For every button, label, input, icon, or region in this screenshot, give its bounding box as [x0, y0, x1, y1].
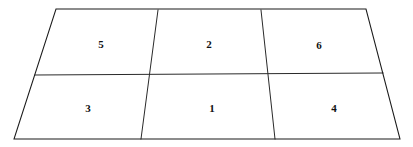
cell-label-top-left: 5 [98, 39, 104, 50]
cell-face-bottom-center[interactable] [141, 72, 275, 139]
cell-label-top-right: 6 [316, 40, 322, 51]
cell-label-bottom-right: 4 [331, 103, 337, 114]
partitioned-quadrilateral-diagram [0, 0, 413, 147]
cell-face-top-left[interactable] [35, 9, 158, 75]
cell-label-bottom-left: 3 [85, 103, 91, 114]
cell-label-top-center: 2 [206, 39, 212, 50]
figure-canvas: 5 2 6 3 1 4 [0, 0, 413, 147]
cell-face-bottom-left[interactable] [14, 72, 151, 139]
cell-label-bottom-center: 1 [209, 103, 215, 114]
